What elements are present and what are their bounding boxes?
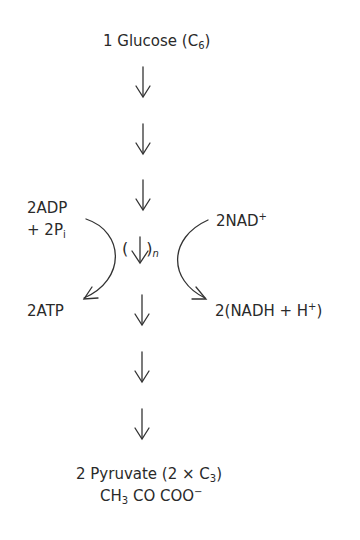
product-pyruvate: 2 Pyruvate (2 × C3) [76,465,222,483]
down-arrow-icon [135,295,149,325]
left-curved-arrow-icon [84,219,115,299]
down-arrow-icon [135,352,149,382]
input-phosphate: + 2Pi [27,221,66,239]
repeat-step-label: ()n [122,240,159,258]
down-arrow-icon [136,180,150,210]
input-nad: 2NAD+ [216,212,267,230]
down-arrow-icon [136,124,150,154]
product-formula: CH3 CO COO− [100,487,202,505]
down-arrow-icon [136,67,150,97]
down-arrow-icon [135,409,149,439]
substrate-glucose: 1 Glucose (C6) [103,32,210,50]
right-curved-arrow-icon [178,220,208,299]
output-atp: 2ATP [27,302,64,320]
output-nadh: 2(NADH + H+) [215,302,322,320]
input-adp: 2ADP [27,199,67,217]
pathway-arrows [0,0,360,540]
